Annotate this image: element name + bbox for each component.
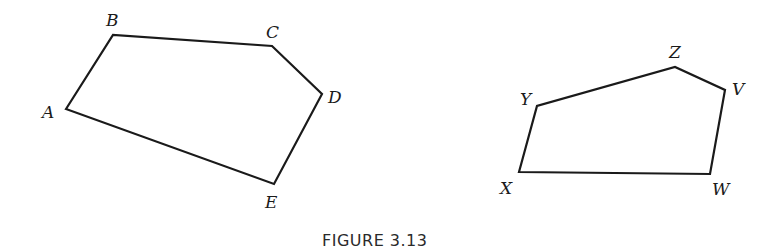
vertex-label-d: D [327, 87, 342, 107]
vertex-label-c: C [266, 22, 279, 42]
polygon-xyzvw [519, 67, 725, 174]
vertex-label-v: V [732, 79, 746, 99]
vertex-label-e: E [264, 192, 278, 212]
vertex-label-z: Z [668, 42, 682, 62]
figure-caption: FIGURE 3.13 [322, 231, 427, 250]
labels-xyzvw: X Y Z V W [498, 42, 746, 199]
vertex-label-y: Y [520, 89, 533, 109]
vertex-label-x: X [498, 178, 513, 198]
vertex-label-b: B [105, 10, 119, 30]
figure-canvas: A B C D E X Y Z V W FIGURE 3.13 [0, 0, 776, 250]
polygon-abcde [66, 35, 322, 184]
vertex-label-a: A [40, 102, 54, 122]
vertex-label-w: W [712, 179, 731, 199]
